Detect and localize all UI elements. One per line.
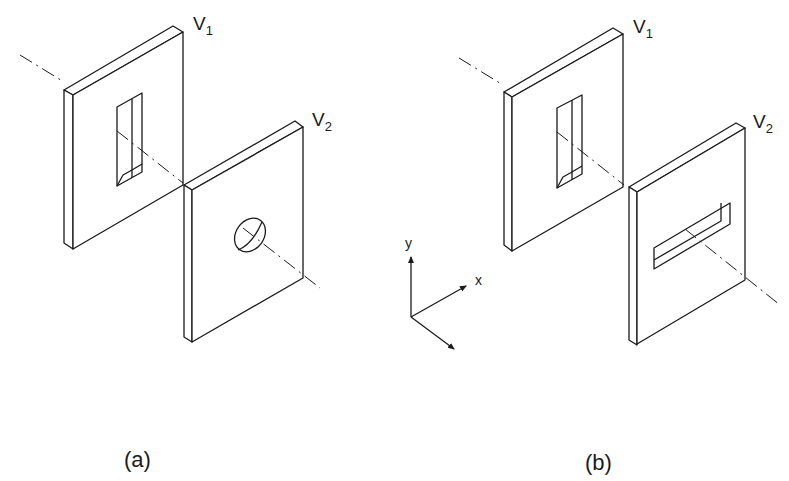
- y-axis-label: y: [405, 235, 412, 251]
- plate-v1-a: [64, 26, 183, 249]
- plate-v2-b: [629, 123, 745, 345]
- label-v1-b: V1: [633, 16, 653, 41]
- plate-v1-front-face: [512, 34, 623, 251]
- label-v2-b: V2: [753, 111, 773, 136]
- plate-v1-front-face: [73, 32, 183, 249]
- plate-v1-side-edge: [64, 90, 73, 249]
- plate-v2-front-face: [637, 128, 745, 344]
- coordinate-axes: y x: [405, 235, 482, 349]
- panel-b: V1 V2 (b): [459, 16, 780, 475]
- plate-v2-side-edge: [629, 187, 637, 345]
- plate-v1-side-edge: [504, 92, 512, 251]
- optical-polarizer-diagram: V1 V2 (a) V1 V2 (b): [0, 0, 789, 481]
- beam-axis-in-b: [459, 58, 503, 85]
- x-axis-label: x: [475, 272, 482, 288]
- plate-v2-side-edge: [184, 185, 192, 342]
- x-axis-arrow: [411, 286, 466, 317]
- panel-a: V1 V2 (a): [20, 13, 332, 472]
- caption-b: (b): [585, 450, 612, 475]
- plate-v2-a: [184, 121, 303, 342]
- plate-v1-b: [504, 28, 623, 251]
- label-v2-a: V2: [312, 109, 332, 134]
- plate-v2-front-face: [192, 127, 303, 342]
- beam-axis-in-a: [20, 55, 64, 82]
- label-v1-a: V1: [193, 13, 213, 38]
- caption-a: (a): [124, 447, 151, 472]
- z-axis-arrow: [411, 317, 454, 349]
